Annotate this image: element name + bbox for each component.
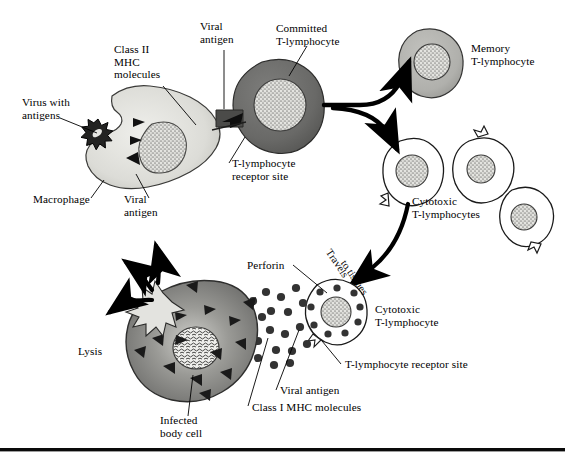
label-macrophage: Macrophage — [33, 193, 90, 206]
label-memory-t-lymphocyte: Memory T-lymphocyte — [471, 42, 535, 67]
immune-response-figure: Virus with antigens Class II MHC molecul… — [0, 0, 565, 463]
cytotoxic-t-lymphocyte-cell-3 — [500, 187, 554, 253]
arrow-to-memory-cell — [324, 62, 409, 105]
label-class-ii-mhc-molecules: Class II MHC molecules — [114, 43, 160, 81]
label-perforin: Perforin — [247, 259, 284, 272]
leader-macrophage — [91, 180, 104, 198]
leader-viral-antigen-bottom — [276, 330, 299, 390]
label-committed-t-lymphocyte: Committed T-lymphocyte — [276, 22, 340, 47]
label-lysis: Lysis — [78, 345, 102, 358]
label-viral-antigen-bottom: Viral antigen — [280, 384, 339, 397]
label-class-i-mhc-molecules: Class I MHC molecules — [252, 401, 361, 414]
committed-t-lymphocyte-cell — [233, 59, 324, 153]
arrow-travels-to-tissues — [352, 204, 408, 284]
label-viral-antigen-top: Viral antigen — [200, 20, 234, 45]
label-virus-with-antigens: Virus with antigens — [22, 96, 70, 121]
label-cytotoxic-t-lymphocytes: Cytotoxic T-lymphocytes — [412, 195, 480, 220]
label-viral-antigen-macrophage: Viral antigen — [124, 193, 158, 218]
label-t-lymphocyte-receptor-site-top: T-lymphocyte receptor site — [232, 157, 296, 182]
label-infected-body-cell: Infected body cell — [160, 414, 202, 439]
bottom-rule — [0, 448, 565, 451]
label-t-lymphocyte-receptor-site-bottom: T-lymphocyte receptor site — [345, 358, 468, 371]
cytotoxic-t-lymphocyte-cell-2 — [453, 126, 514, 203]
t-lymphocyte-receptor-bridge — [212, 110, 246, 130]
label-cytotoxic-t-lymphocyte-single: Cytotoxic T-lymphocyte — [375, 303, 439, 328]
arrow-to-cytotoxic-cells — [333, 108, 397, 149]
